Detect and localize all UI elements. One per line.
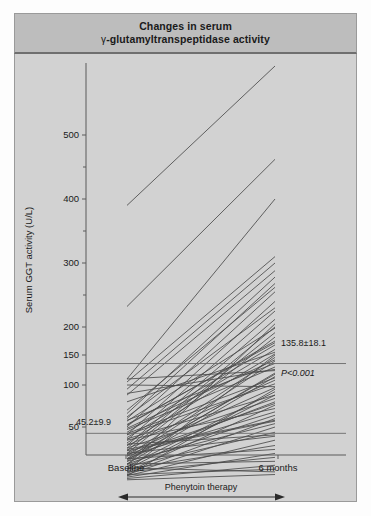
subject-line <box>127 475 275 480</box>
y-tick-label: 400 <box>63 193 79 204</box>
y-tick-label: 300 <box>63 257 79 268</box>
y-axis-title: Serum GGT activity (U/L) <box>23 207 34 313</box>
figure-root: Changes in serum γ-glutamyltranspeptidas… <box>0 0 371 516</box>
y-tick-label: 150 <box>63 349 79 360</box>
plot-area: 50100150200300400500Baseline6 monthsSeru… <box>14 55 357 502</box>
p-value-annotation: P<0.001 <box>281 368 315 378</box>
subject-line <box>127 66 275 205</box>
followup-mean-annotation: 135.8±18.1 <box>281 338 326 348</box>
page-title-line-1: Changes in serum <box>139 20 232 33</box>
therapy-label: Phenytoin therapy <box>165 482 238 492</box>
axes <box>82 63 346 459</box>
subject-line <box>127 159 275 306</box>
therapy-arrow-head-left <box>118 493 128 500</box>
spaghetti-lines <box>127 66 275 480</box>
page-title-line-2-text: -glutamyltranspeptidase activity <box>106 33 270 45</box>
subject-line <box>127 345 275 432</box>
subject-line <box>127 343 275 425</box>
chart-svg: 50100150200300400500Baseline6 monthsSeru… <box>14 55 357 502</box>
y-tick-label: 500 <box>63 129 79 140</box>
x-tick-label-1: 6 months <box>258 462 297 473</box>
page-title-line-2: γ-glutamyltranspeptidase activity <box>101 33 270 46</box>
x-tick-label-0: Baseline <box>108 462 144 473</box>
y-tick-label: 200 <box>63 321 79 332</box>
therapy-arrow-head-right <box>275 493 285 500</box>
figure-title-bar: Changes in serum γ-glutamyltranspeptidas… <box>14 13 357 54</box>
baseline-mean-annotation: 45.2±9.9 <box>76 417 111 427</box>
y-tick-label: 100 <box>63 379 79 390</box>
